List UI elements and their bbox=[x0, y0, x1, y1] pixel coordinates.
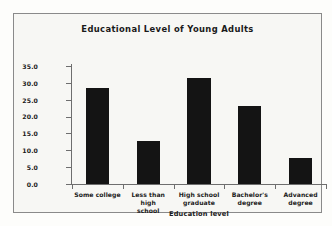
x-axis-line bbox=[71, 184, 327, 185]
y-axis-tick-label: 0.0 bbox=[8, 181, 38, 188]
plot-area bbox=[72, 66, 326, 184]
y-axis-tick-label: 30.0 bbox=[8, 80, 38, 87]
chart-frame: Educational Level of Young Adults 35.030… bbox=[13, 13, 322, 213]
x-axis-category-label-line: Less than high bbox=[123, 191, 174, 207]
x-axis-category-label: Bachelor'sdegree bbox=[224, 191, 275, 207]
x-axis-tick bbox=[174, 185, 175, 189]
x-axis-category-label-line: graduate bbox=[174, 199, 225, 207]
y-axis-tick-label: 25.0 bbox=[8, 97, 38, 104]
x-axis-category-label-line: Some college bbox=[72, 191, 123, 199]
y-axis-tick bbox=[66, 133, 71, 134]
x-axis-title: Education level bbox=[72, 210, 326, 218]
x-axis-tick bbox=[72, 185, 73, 189]
bar bbox=[289, 158, 312, 184]
y-axis-tick-label: 20.0 bbox=[8, 113, 38, 120]
x-axis-category-label-line: Advanced bbox=[275, 191, 326, 199]
x-axis-tick bbox=[326, 185, 327, 189]
y-axis-tick bbox=[66, 66, 71, 67]
x-axis-tick bbox=[224, 185, 225, 189]
y-axis-tick-label: 5.0 bbox=[8, 164, 38, 171]
x-axis-category-label: Some college bbox=[72, 191, 123, 199]
y-axis-tick bbox=[66, 100, 71, 101]
bar bbox=[238, 106, 261, 184]
bar bbox=[137, 141, 160, 184]
x-axis-category-label-line: High school bbox=[174, 191, 225, 199]
bar bbox=[86, 88, 109, 184]
y-axis-tick bbox=[66, 167, 71, 168]
x-axis-category-label-line: degree bbox=[275, 199, 326, 207]
y-axis-tick-label: 10.0 bbox=[8, 147, 38, 154]
x-axis-tick bbox=[123, 185, 124, 189]
screenshot-canvas: Educational Level of Young Adults 35.030… bbox=[0, 0, 332, 226]
x-axis-category-label: Advanceddegree bbox=[275, 191, 326, 207]
y-axis-tick bbox=[66, 184, 71, 185]
x-axis-category-label: High schoolgraduate bbox=[174, 191, 225, 207]
x-axis-tick bbox=[275, 185, 276, 189]
x-axis-category-label-line: Bachelor's bbox=[224, 191, 275, 199]
y-axis-tick bbox=[66, 150, 71, 151]
y-axis-tick-label: 15.0 bbox=[8, 130, 38, 137]
y-axis-tick bbox=[66, 83, 71, 84]
y-axis-tick bbox=[66, 117, 71, 118]
y-axis-tick-label: 35.0 bbox=[8, 63, 38, 70]
x-axis-category-label-line: degree bbox=[224, 199, 275, 207]
chart-title: Educational Level of Young Adults bbox=[14, 24, 321, 34]
bar bbox=[187, 78, 210, 184]
